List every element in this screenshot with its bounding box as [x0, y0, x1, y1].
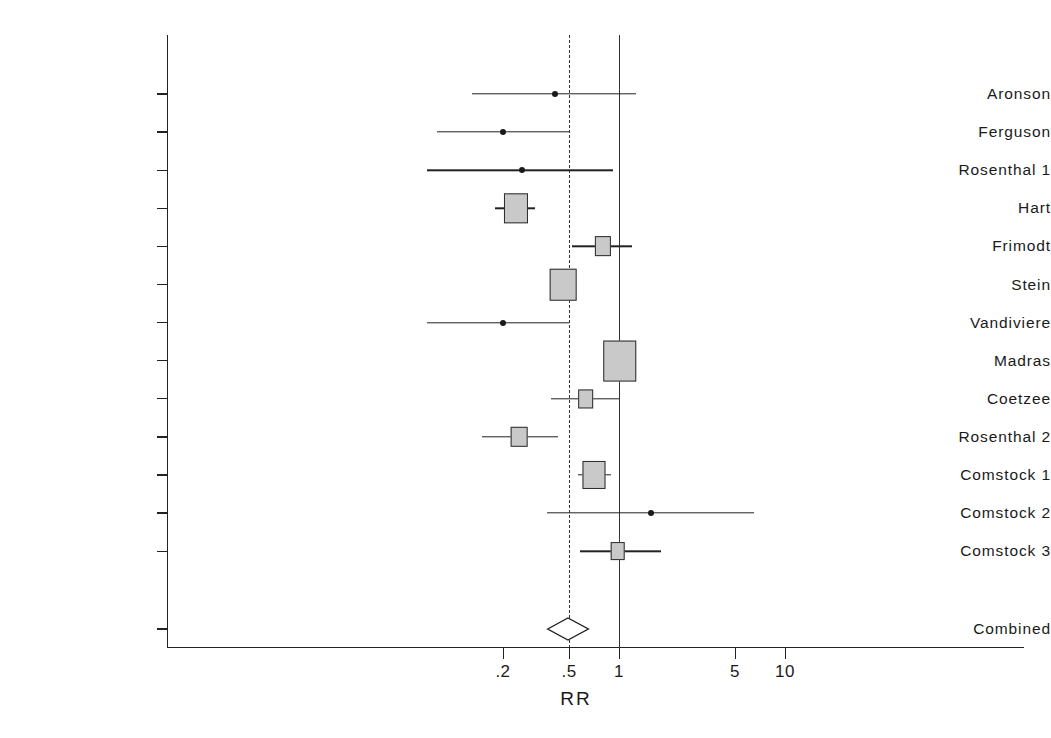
y-tick	[157, 131, 168, 132]
study-label: Comstock 2	[899, 504, 1051, 522]
study-label: Vandiviere	[899, 314, 1051, 332]
effect-size-marker	[603, 340, 637, 381]
y-axis-line	[167, 35, 168, 648]
study-label: Ferguson	[899, 123, 1051, 141]
y-tick	[157, 322, 168, 323]
x-tick	[569, 648, 570, 659]
combined-label: Combined	[899, 620, 1051, 638]
x-axis-title: RR	[560, 688, 591, 710]
x-tick	[785, 648, 786, 659]
combined-effect-diamond	[545, 616, 590, 642]
study-label: Frimodt	[899, 237, 1051, 255]
study-label: Rosenthal 2	[899, 428, 1051, 446]
x-tick	[619, 648, 620, 659]
x-tick-label: .2	[495, 662, 510, 682]
reference-line-0p5	[569, 35, 571, 648]
effect-size-marker	[595, 237, 611, 257]
y-tick	[157, 512, 168, 513]
effect-size-marker	[550, 268, 577, 301]
x-tick	[503, 648, 504, 659]
study-label: Madras	[899, 352, 1051, 370]
study-label: Aronson	[899, 85, 1051, 103]
confidence-interval-line	[427, 322, 569, 323]
effect-size-marker	[583, 461, 606, 489]
x-tick-label: .5	[561, 662, 576, 682]
y-tick	[157, 474, 168, 475]
y-tick	[157, 246, 168, 247]
y-tick	[157, 284, 168, 285]
y-tick	[157, 436, 168, 437]
forest-plot: AronsonFergusonRosenthal 1HartFrimodtSte…	[0, 0, 1051, 738]
x-tick-label: 5	[730, 662, 740, 682]
effect-size-marker	[500, 320, 506, 326]
y-tick	[157, 208, 168, 209]
y-tick	[157, 170, 168, 171]
study-label: Hart	[899, 199, 1051, 217]
effect-size-marker	[578, 389, 594, 408]
y-tick	[157, 93, 168, 94]
study-label: Comstock 3	[899, 542, 1051, 560]
x-axis-line	[167, 647, 1024, 648]
effect-size-marker	[610, 542, 625, 560]
study-label: Comstock 1	[899, 466, 1051, 484]
y-tick	[157, 398, 168, 399]
effect-size-marker	[648, 510, 654, 516]
study-label: Rosenthal 1	[899, 161, 1051, 179]
effect-size-marker	[511, 427, 528, 447]
study-label: Stein	[899, 276, 1051, 294]
effect-size-marker	[500, 129, 506, 135]
x-tick	[735, 648, 736, 659]
study-label: Coetzee	[899, 390, 1051, 408]
x-tick-label: 10	[775, 662, 795, 682]
effect-size-marker	[504, 194, 528, 223]
y-tick	[157, 551, 168, 552]
effect-size-marker	[519, 167, 525, 173]
x-tick-label: 1	[614, 662, 624, 682]
y-tick	[157, 360, 168, 361]
effect-size-marker	[552, 91, 558, 97]
y-tick-combined	[157, 628, 168, 629]
